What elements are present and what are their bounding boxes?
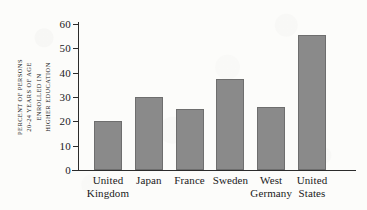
x-tick-label: Japan — [136, 174, 162, 187]
bar-chart-figure: PERCENT OF PERSONS 20-24 YEARS OF AGE EN… — [0, 0, 367, 210]
x-tick-label-line: Japan — [136, 174, 162, 187]
y-axis-title-line-4: HIGHER EDUCATION — [45, 62, 51, 132]
y-tick-label: 10 — [60, 140, 71, 151]
plot-area: 0102030405060 UnitedKingdomJapanFranceSw… — [78, 24, 355, 170]
x-tick-label: France — [174, 174, 205, 187]
y-axis-title-line-3: ENROLLED IN — [36, 73, 42, 120]
x-tick-label-line: Kingdom — [87, 187, 129, 200]
y-tick-label: 60 — [60, 19, 71, 30]
y-tick-label: 30 — [60, 92, 71, 103]
y-tick-label: 50 — [60, 43, 71, 54]
bar-united-states — [298, 35, 326, 170]
y-tick-label: 0 — [65, 165, 71, 176]
x-tick-label-line: United — [297, 174, 328, 187]
x-tick-label: WestGermany — [250, 174, 292, 199]
bar-west-germany — [257, 107, 285, 170]
y-tick-label: 40 — [60, 67, 71, 78]
x-tick-label: UnitedStates — [297, 174, 328, 199]
x-tick-label-line: West — [250, 174, 292, 187]
x-tick-label: Sweden — [213, 174, 248, 187]
bar-united-kingdom — [94, 121, 122, 170]
y-tick-mark — [73, 170, 78, 171]
x-tick-label: UnitedKingdom — [87, 174, 129, 199]
bar-japan — [135, 97, 163, 170]
y-tick-label: 20 — [60, 116, 71, 127]
x-tick-label-line: Germany — [250, 187, 292, 200]
x-tick-label-line: United — [87, 174, 129, 187]
bars-layer: UnitedKingdomJapanFranceSwedenWestGerman… — [78, 24, 355, 170]
y-axis-title: PERCENT OF PERSONS 20-24 YEARS OF AGE EN… — [14, 24, 64, 170]
bar-sweden — [216, 79, 244, 170]
bar-france — [176, 109, 204, 170]
y-axis-title-line-1: PERCENT OF PERSONS — [17, 59, 23, 135]
x-tick-label-line: Sweden — [213, 174, 248, 187]
x-tick-label-line: France — [174, 174, 205, 187]
x-axis-line — [72, 170, 356, 171]
y-axis-title-line-2: 20-24 YEARS OF AGE — [26, 62, 32, 131]
x-tick-label-line: States — [297, 187, 328, 200]
